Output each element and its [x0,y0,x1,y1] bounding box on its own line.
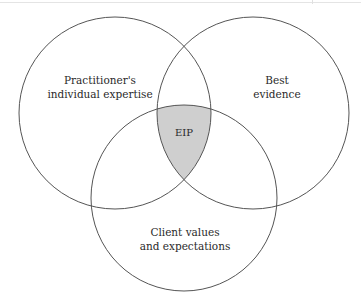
label-best-evidence-line1: Best [265,74,289,86]
label-practitioner-line2: individual expertise [47,88,152,100]
label-best-evidence-line2: evidence [253,88,300,100]
venn-diagram: Practitioner's individual expertise Best… [0,0,361,305]
label-practitioner-line1: Practitioner's [64,74,136,86]
label-eip: EIP [175,127,193,138]
label-client-values-line1: Client values [150,226,219,238]
label-client-values-line2: and expectations [140,240,231,252]
